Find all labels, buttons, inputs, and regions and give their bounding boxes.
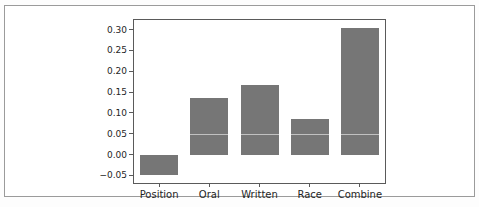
- figure-frame: −0.050.000.050.100.150.200.250.30Positio…: [4, 5, 475, 197]
- y-axis-tick: [129, 92, 133, 93]
- y-axis-tick-label: 0.10: [86, 108, 127, 118]
- y-axis-tick: [129, 71, 133, 72]
- bar-written: [241, 85, 279, 155]
- figure-image: −0.050.000.050.100.150.200.250.30Positio…: [0, 0, 479, 207]
- x-axis-tick: [259, 183, 260, 187]
- bar-race: [291, 119, 329, 154]
- y-axis-tick-label: 0.20: [86, 66, 127, 76]
- chart-axes: −0.050.000.050.100.150.200.250.30Positio…: [133, 19, 386, 184]
- x-axis-tick: [159, 183, 160, 187]
- x-axis-tick-label: Combine: [325, 189, 395, 200]
- y-axis-tick: [129, 50, 133, 51]
- x-axis-tick: [359, 183, 360, 187]
- y-axis-tick: [129, 112, 133, 113]
- bar-combine: [341, 28, 379, 155]
- y-axis-tick-label: 0.25: [86, 45, 127, 55]
- y-axis-tick-label: 0.05: [86, 129, 127, 139]
- x-axis-tick: [209, 183, 210, 187]
- reference-line: [134, 134, 385, 135]
- y-axis-tick: [129, 29, 133, 30]
- y-axis-tick: [129, 133, 133, 134]
- y-axis-tick-label: −0.05: [86, 170, 127, 180]
- y-axis-tick: [129, 175, 133, 176]
- y-axis-tick-label: 0.30: [86, 25, 127, 35]
- y-axis-tick-label: 0.15: [86, 87, 127, 97]
- y-axis-tick-label: 0.00: [86, 150, 127, 160]
- y-axis-tick: [129, 154, 133, 155]
- x-axis-tick: [309, 183, 310, 187]
- bar-position: [140, 155, 178, 176]
- bar-oral: [190, 98, 228, 154]
